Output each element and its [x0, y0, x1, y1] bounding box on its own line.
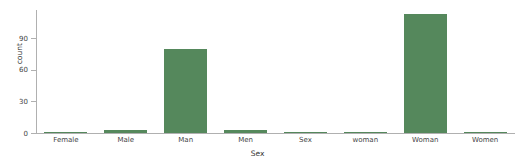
x-tick-label-woman: woman	[353, 137, 379, 144]
plot-area	[36, 10, 515, 133]
bar-Sex	[284, 132, 327, 133]
x-tick-label-Women: Women	[472, 137, 498, 144]
x-axis-spine	[36, 133, 515, 134]
bar-chart-figure: 0306090 FemaleMaleManMenSexwomanWomanWom…	[0, 0, 515, 166]
bar-Male	[104, 130, 147, 133]
x-tick-label-Male: Male	[118, 137, 135, 144]
bar-Woman	[404, 14, 447, 133]
bar-Men	[224, 130, 267, 133]
bar-Female	[44, 132, 87, 133]
x-tick-label-Female: Female	[53, 137, 78, 144]
x-tick-label-Man: Man	[178, 137, 193, 144]
y-tick-label: 30	[19, 98, 28, 105]
y-tick-label: 60	[19, 67, 28, 74]
x-tick-label-Men: Men	[238, 137, 253, 144]
bar-Man	[164, 49, 207, 133]
y-axis-title: count	[16, 43, 24, 64]
bar-woman	[344, 132, 387, 133]
bar-Women	[464, 132, 507, 133]
y-tick-label: 0	[24, 130, 28, 137]
y-tick-0: 0	[31, 133, 36, 134]
x-tick-label-Woman: Woman	[412, 137, 438, 144]
y-tick-label: 90	[19, 35, 28, 42]
x-axis-title: Sex	[0, 150, 515, 158]
x-tick-label-Sex: Sex	[299, 137, 312, 144]
